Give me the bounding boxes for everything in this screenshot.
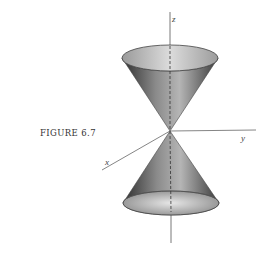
- z-axis-label: z: [171, 14, 176, 24]
- y-axis: [170, 130, 256, 131]
- y-axis-label: y: [240, 133, 245, 143]
- x-axis-label: x: [104, 157, 109, 167]
- double-cone-diagram: z y x: [0, 0, 272, 254]
